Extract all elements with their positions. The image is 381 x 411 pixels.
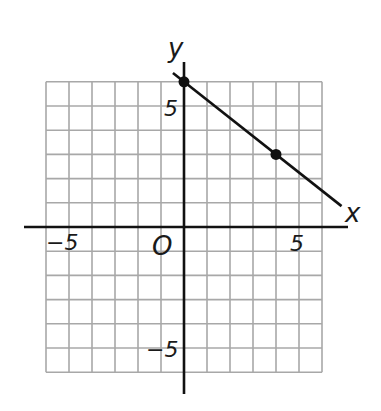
- x-axis-label: x: [345, 200, 360, 226]
- y-axis-label: y: [168, 35, 183, 61]
- plotted-line: [173, 73, 342, 206]
- x-tick-label-5: 5: [290, 233, 304, 255]
- data-point: [271, 149, 282, 160]
- y-tick-label-5: 5: [164, 98, 178, 120]
- data-series: [173, 73, 342, 206]
- data-point: [179, 76, 190, 87]
- x-tick-label-neg5: −5: [46, 232, 78, 254]
- coordinate-plane: [0, 0, 381, 411]
- origin-label: O: [152, 233, 172, 259]
- y-tick-label-neg5: −5: [146, 339, 178, 361]
